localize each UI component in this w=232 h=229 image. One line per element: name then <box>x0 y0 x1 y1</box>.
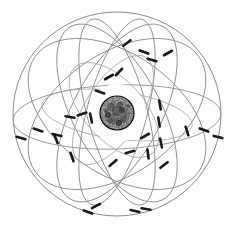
electron-23 <box>160 162 167 168</box>
nucleus-group <box>94 90 140 136</box>
electron-8 <box>158 118 160 127</box>
electron-5 <box>105 75 113 80</box>
electron-16 <box>214 136 223 138</box>
nucleus-speckle <box>111 101 116 106</box>
electron-2 <box>140 50 148 53</box>
nucleus-speckle <box>119 107 125 113</box>
nucleus-speckle <box>116 120 122 126</box>
electron-17 <box>141 134 149 139</box>
nucleus-speckle <box>124 113 129 118</box>
electron-27 <box>142 208 151 210</box>
electron-30 <box>70 153 73 161</box>
nucleus-speckle <box>111 119 116 124</box>
electron-20 <box>147 150 148 159</box>
electron-11 <box>34 129 43 132</box>
electron-9 <box>66 116 75 118</box>
electron-3 <box>164 51 172 56</box>
electron-25 <box>84 210 92 213</box>
electron-22 <box>110 160 117 166</box>
electron-7 <box>159 101 161 110</box>
electron-19 <box>126 151 135 153</box>
electron-15 <box>200 128 208 131</box>
nucleus-speckle <box>104 109 108 113</box>
atom-model-figure <box>0 0 232 229</box>
electron-13 <box>17 137 26 139</box>
electron-18 <box>160 139 162 148</box>
nucleus-speckle <box>126 104 130 108</box>
electron-24 <box>92 204 100 208</box>
atom-diagram-canvas <box>0 0 232 229</box>
electron-26 <box>131 210 140 212</box>
electron-29 <box>90 114 92 123</box>
electron-1 <box>123 40 130 46</box>
